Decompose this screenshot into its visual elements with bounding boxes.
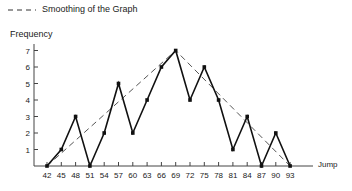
data-point [117, 82, 121, 86]
x-tick-label: 84 [243, 171, 252, 180]
data-point [245, 115, 249, 119]
axes: 1234567424548515457606366697275788184879… [26, 44, 313, 180]
data-point [74, 115, 78, 119]
data-point [217, 98, 221, 102]
y-tick-label: 5 [26, 80, 31, 89]
x-tick-label: 69 [171, 171, 180, 180]
y-tick-label: 2 [26, 129, 31, 138]
line-chart: 1234567424548515457606366697275788184879… [0, 0, 352, 191]
x-tick-label: 45 [57, 171, 66, 180]
y-tick-label: 3 [26, 113, 31, 122]
data-point [203, 65, 207, 69]
data-point [131, 131, 135, 135]
data-point [88, 164, 92, 168]
x-tick-label: 51 [85, 171, 94, 180]
data-point [160, 65, 164, 69]
frequency-line [47, 51, 290, 167]
series [45, 49, 292, 168]
data-point [45, 164, 49, 168]
x-tick-label: 63 [143, 171, 152, 180]
data-point [188, 98, 192, 102]
data-point [60, 148, 64, 152]
data-point [288, 164, 292, 168]
x-tick-label: 48 [71, 171, 80, 180]
data-point [274, 131, 278, 135]
x-tick-label: 72 [186, 171, 195, 180]
y-tick-label: 6 [26, 63, 31, 72]
data-point [102, 131, 106, 135]
data-point [260, 164, 264, 168]
x-tick-label: 66 [157, 171, 166, 180]
x-tick-label: 75 [200, 171, 209, 180]
data-point [231, 148, 235, 152]
x-tick-label: 42 [43, 171, 52, 180]
y-tick-label: 4 [26, 96, 31, 105]
x-tick-label: 54 [100, 171, 109, 180]
smoothing-line [47, 51, 290, 167]
y-tick-label: 1 [26, 146, 31, 155]
x-tick-label: 81 [228, 171, 237, 180]
x-tick-label: 60 [128, 171, 137, 180]
x-tick-label: 90 [271, 171, 280, 180]
data-point [145, 98, 149, 102]
x-tick-label: 87 [257, 171, 266, 180]
x-tick-label: 57 [114, 171, 123, 180]
data-point [174, 49, 178, 53]
y-tick-label: 7 [26, 47, 31, 56]
x-tick-label: 93 [286, 171, 295, 180]
x-tick-label: 78 [214, 171, 223, 180]
